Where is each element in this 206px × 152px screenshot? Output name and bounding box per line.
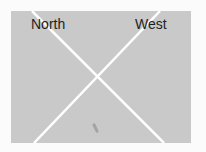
label-north: North [31,16,65,32]
gray-panel: North West [11,11,191,143]
label-west: West [135,16,167,32]
